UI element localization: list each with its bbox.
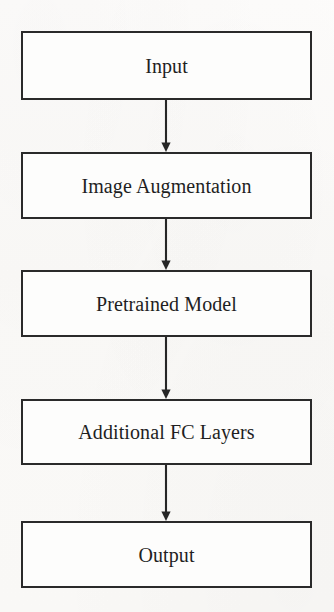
node-label-output: Output	[138, 544, 194, 564]
flowchart-node-additional-fc-layers[interactable]: Additional FC Layers	[21, 399, 312, 465]
node-label-input: Input	[145, 55, 188, 75]
flowchart-arrow-pretrained-model-to-additional-fc-layers	[160, 337, 172, 399]
flowchart-node-image-augmentation[interactable]: Image Augmentation	[21, 152, 312, 219]
flowchart-node-pretrained-model[interactable]: Pretrained Model	[21, 270, 312, 337]
flowchart-arrow-additional-fc-layers-to-output	[160, 465, 172, 521]
flowchart-node-output[interactable]: Output	[21, 521, 312, 588]
flowchart-canvas: Input Image Augmentation Pretrained Mode…	[0, 0, 334, 612]
flowchart-arrow-image-augmentation-to-pretrained-model	[160, 219, 172, 270]
flowchart-arrow-input-to-image-augmentation	[160, 100, 172, 152]
node-label-additional-fc-layers: Additional FC Layers	[78, 422, 254, 442]
node-label-pretrained-model: Pretrained Model	[96, 293, 237, 313]
flowchart-node-input[interactable]: Input	[21, 31, 312, 100]
node-label-image-augmentation: Image Augmentation	[81, 175, 251, 195]
